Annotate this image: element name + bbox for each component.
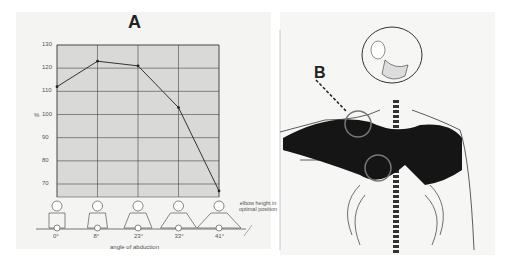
anatomy-illustration [0,0,512,268]
panel-b-label: B [314,64,326,82]
